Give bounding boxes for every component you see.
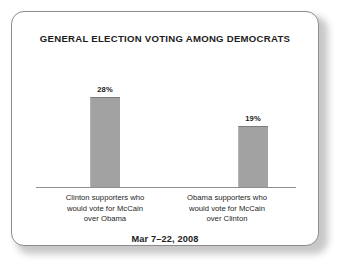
x-axis-baseline (36, 187, 296, 188)
bar-group-obama: 19% (238, 126, 268, 187)
chart-card: GENERAL ELECTION VOTING AMONG DEMOCRATS … (11, 11, 319, 246)
category-label-1-line-3: over Obama (39, 214, 171, 225)
chart-image: GENERAL ELECTION VOTING AMONG DEMOCRATS … (0, 0, 341, 273)
chart-date-footer: Mar 7–22, 2008 (12, 234, 318, 244)
category-label-2-line-1: Obama supporters who (161, 193, 293, 204)
category-label-1: Clinton supporters who would vote for Mc… (39, 193, 171, 225)
category-label-1-line-2: would vote for McCain (39, 204, 171, 215)
bar-value-label-2: 19% (226, 114, 280, 123)
category-labels: Clinton supporters who would vote for Mc… (26, 193, 306, 233)
bar-group-clinton: 28% (90, 97, 120, 187)
bar-1 (90, 97, 120, 187)
chart-title: GENERAL ELECTION VOTING AMONG DEMOCRATS (12, 33, 318, 44)
bar-value-label-1: 28% (78, 85, 132, 94)
category-label-1-line-1: Clinton supporters who (39, 193, 171, 204)
category-label-2-line-2: would vote for McCain (161, 204, 293, 215)
category-label-2-line-3: over Clinton (161, 214, 293, 225)
plot-area: 28% 19% (26, 72, 306, 188)
bar-2 (238, 126, 268, 187)
category-label-2: Obama supporters who would vote for McCa… (161, 193, 293, 225)
